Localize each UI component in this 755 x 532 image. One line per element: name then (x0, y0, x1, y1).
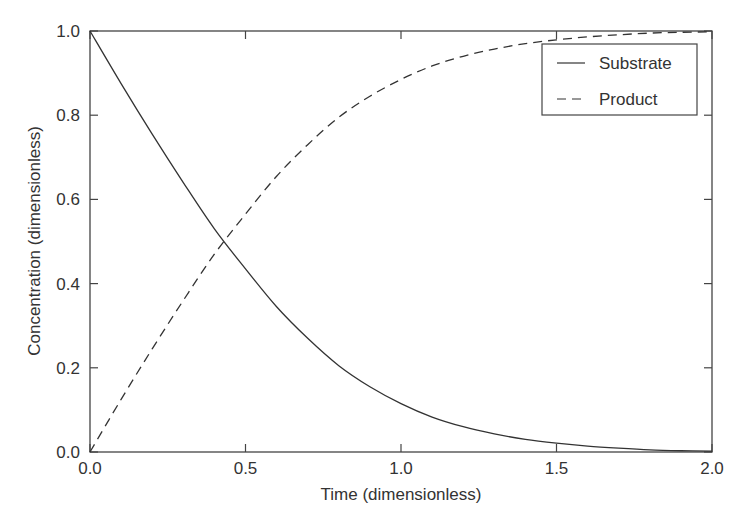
chart: 0.00.51.01.52.0 0.00.20.40.60.81.0 Time … (0, 0, 755, 532)
y-tick-label: 0.4 (56, 275, 80, 294)
x-tick-label: 1.0 (389, 459, 413, 478)
legend-substrate-label: Substrate (599, 54, 672, 73)
y-tick-label: 0.2 (56, 359, 80, 378)
y-axis-label: Concentration (dimensionless) (25, 126, 44, 356)
x-axis-label: Time (dimensionless) (321, 485, 482, 504)
x-tick-label: 0.0 (78, 459, 102, 478)
y-tick-label: 0.6 (56, 190, 80, 209)
legend: Substrate Product (542, 44, 697, 115)
y-tick-label: 0.0 (56, 443, 80, 462)
x-tick-label: 2.0 (700, 459, 724, 478)
y-tick-label: 1.0 (56, 22, 80, 41)
legend-product-label: Product (599, 90, 658, 109)
y-tick-label: 0.8 (56, 106, 80, 125)
x-tick-label: 0.5 (234, 459, 258, 478)
x-tick-label: 1.5 (545, 459, 569, 478)
